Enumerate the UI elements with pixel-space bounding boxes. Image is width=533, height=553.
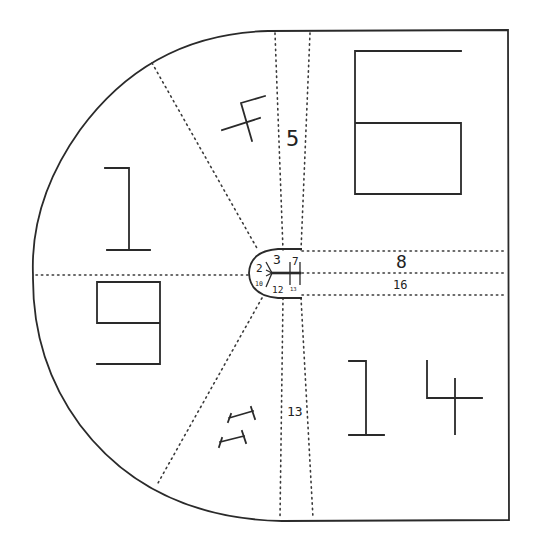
- zone-13-label: 13: [287, 404, 303, 419]
- lower-diagonal-divider: [158, 298, 262, 483]
- zone-11-glyph: [219, 407, 255, 447]
- vertical-b-bottom-divider: [301, 298, 313, 518]
- inset-label-10: 10: [255, 280, 263, 288]
- inset-label-12: 12: [272, 284, 283, 295]
- zone-8-label: 8: [396, 251, 407, 272]
- inset-label-2: 2: [256, 262, 263, 275]
- zone-5-label: 5: [286, 126, 299, 151]
- center-inset: 2 3 7 10 12 13: [249, 249, 302, 298]
- inset-label-3: 3: [273, 252, 281, 267]
- vertical-b-top-divider: [301, 33, 310, 250]
- vertical-a-top-divider: [275, 33, 283, 250]
- upper-diagonal-divider: [152, 63, 258, 250]
- zone-14-glyph: [349, 361, 482, 435]
- zone-9-glyph: [97, 282, 160, 364]
- zone-16-label: 16: [393, 278, 407, 292]
- zone-diagram: 2 3 7 10 12 13 5 8 16 13: [0, 0, 533, 553]
- zone-4-glyph: [222, 96, 265, 141]
- zone-1-glyph: [105, 168, 150, 250]
- vertical-a-bottom-divider: [280, 298, 283, 518]
- inset-label-13: 13: [290, 286, 297, 292]
- zone-6-glyph: [355, 51, 461, 194]
- inset-label-7: 7: [292, 255, 299, 268]
